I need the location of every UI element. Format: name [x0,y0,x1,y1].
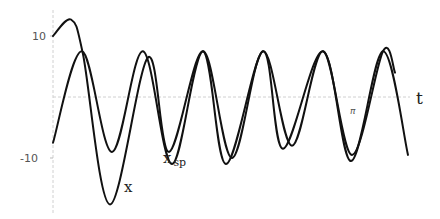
chart: 10 -10 π t x xsp [0,0,440,219]
curve-label-x-sp: xsp [163,149,186,169]
curve-label-x: x [124,178,133,196]
x-tick-label-pi: π [350,106,356,116]
y-tick-label-neg10: -10 [20,152,38,165]
y-tick-label-10: 10 [32,30,46,43]
curve-label-x-sp-sub: sp [173,156,186,169]
x-axis-label: t [416,88,423,108]
curve-label-x-sp-main: x [163,149,172,167]
